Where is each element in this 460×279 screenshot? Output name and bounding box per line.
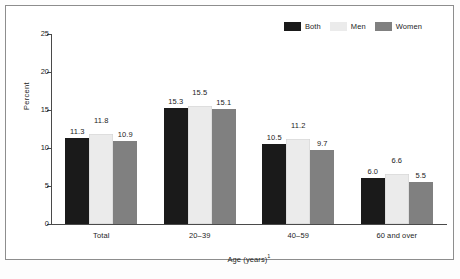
legend-item-both: Both [284, 22, 321, 31]
bar-value-label: 10.9 [118, 130, 133, 139]
bar-slot: 11.3 [65, 34, 89, 224]
bar-men-total[interactable] [89, 134, 113, 224]
y-tick-label: 25 [41, 29, 49, 38]
bar-women-total[interactable] [113, 141, 137, 224]
bar-slot: 15.3 [164, 34, 188, 224]
y-tick-label: 10 [41, 143, 49, 152]
bar-slot: 15.1 [212, 34, 236, 224]
legend-label-both: Both [305, 22, 321, 31]
bar-group-bars: 10.511.29.7 [249, 34, 348, 224]
bar-value-label: 15.1 [216, 98, 231, 107]
bar-value-label: 11.2 [291, 121, 305, 130]
x-axis-title: Age (years)1 [52, 253, 446, 264]
x-category-label: 60 and over [376, 231, 417, 240]
bar-value-label: 10.5 [267, 133, 282, 142]
x-axis-line [51, 224, 447, 225]
bar-slot: 11.8 [89, 34, 113, 224]
bar-group: 11.311.810.9Total [52, 34, 151, 224]
bar-value-label: 6.6 [391, 156, 402, 165]
plot-area: 0510152025 11.311.810.9Total15.315.515.1… [52, 34, 446, 224]
bar-slot: 10.9 [113, 34, 137, 224]
legend-swatch-both [284, 22, 301, 31]
x-category-label: Total [93, 231, 109, 240]
bar-value-label: 11.8 [94, 116, 108, 125]
legend-swatch-men [330, 22, 347, 31]
bar-slot: 9.7 [310, 34, 334, 224]
bar-value-label: 15.3 [168, 97, 183, 106]
bar-slot: 5.5 [409, 34, 433, 224]
bar-men-40–59[interactable] [286, 139, 310, 224]
legend-swatch-women [375, 22, 392, 31]
bar-value-label: 15.5 [192, 88, 207, 97]
bar-value-label: 6.0 [367, 167, 378, 176]
chart-legend: Both Men Women [284, 20, 422, 32]
x-axis-title-text: Age (years) [227, 255, 267, 264]
bar-women-20–39[interactable] [212, 109, 236, 224]
bar-group: 6.06.65.560 and over [348, 34, 447, 224]
bar-group: 10.511.29.740–59 [249, 34, 348, 224]
x-category-label: 20–39 [189, 231, 210, 240]
y-tick-label: 0 [45, 219, 49, 228]
y-tick-label: 15 [41, 105, 49, 114]
bar-value-label: 5.5 [415, 171, 426, 180]
bar-group-bars: 15.315.515.1 [151, 34, 250, 224]
bar-group-bars: 11.311.810.9 [52, 34, 151, 224]
bar-slot: 6.6 [385, 34, 409, 224]
y-tick-label: 20 [41, 67, 49, 76]
x-category-label: 40–59 [288, 231, 309, 240]
bar-women-40–59[interactable] [310, 150, 334, 224]
bar-both-60-and-over[interactable] [361, 178, 385, 224]
bar-both-20–39[interactable] [164, 108, 188, 224]
bar-slot: 11.2 [286, 34, 310, 224]
bar-both-total[interactable] [65, 138, 89, 224]
legend-item-women: Women [375, 22, 422, 31]
legend-label-women: Women [396, 22, 422, 31]
y-tick-label: 5 [45, 181, 49, 190]
legend-label-men: Men [351, 22, 366, 31]
bar-slot: 10.5 [262, 34, 286, 224]
bar-men-60-and-over[interactable] [385, 174, 409, 224]
bar-both-40–59[interactable] [262, 144, 286, 224]
bar-women-60-and-over[interactable] [409, 182, 433, 224]
bar-men-20–39[interactable] [188, 106, 212, 224]
x-axis-footnote-marker: 1 [267, 253, 270, 259]
figure-frame: Both Men Women Percent 0510152025 11.311… [5, 5, 454, 260]
bar-slot: 6.0 [361, 34, 385, 224]
bar-group-bars: 6.06.65.5 [348, 34, 447, 224]
bar-slot: 15.5 [188, 34, 212, 224]
bar-value-label: 9.7 [317, 139, 328, 148]
legend-item-men: Men [330, 22, 366, 31]
y-axis-title: Percent [22, 82, 31, 110]
bar-value-label: 11.3 [70, 127, 84, 136]
bar-group: 15.315.515.120–39 [151, 34, 250, 224]
figure-root: Both Men Women Percent 0510152025 11.311… [0, 0, 460, 279]
